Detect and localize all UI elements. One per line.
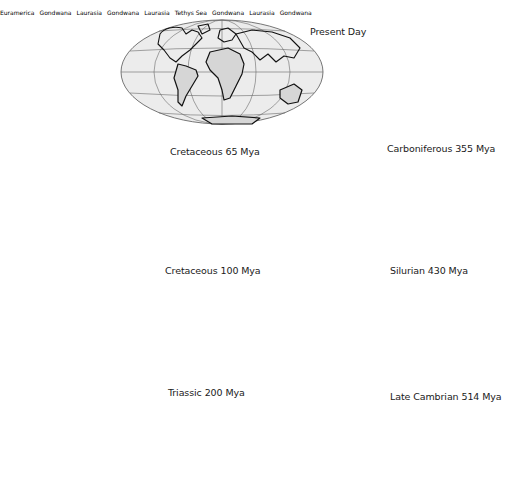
continental-drift-figure xyxy=(0,0,515,504)
label-present-day: Present Day xyxy=(310,26,366,37)
label-carboniferous-355: Carboniferous 355 Mya xyxy=(387,143,495,154)
label-cretaceous-100: Cretaceous 100 Mya xyxy=(165,265,261,276)
map-present-day xyxy=(121,20,323,124)
label-silurian-430: Silurian 430 Mya xyxy=(390,265,468,276)
label-triassic-200: Triassic 200 Mya xyxy=(168,387,245,398)
label-cretaceous-65: Cretaceous 65 Mya xyxy=(170,146,260,157)
label-late-cambrian-514: Late Cambrian 514 Mya xyxy=(390,391,502,402)
